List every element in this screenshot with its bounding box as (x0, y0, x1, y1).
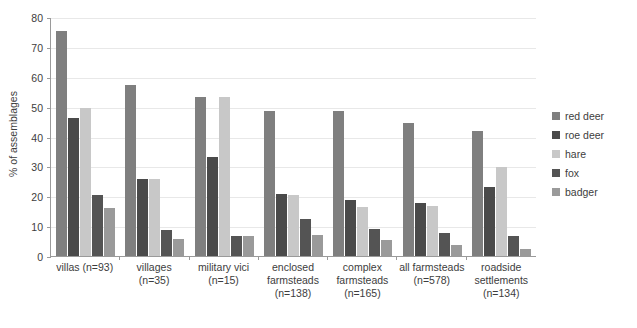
bar-red-deer-4 (333, 111, 344, 256)
x-axis-label-6: roadsidesettlements(n=134) (467, 261, 536, 300)
bar-hare-4 (357, 207, 368, 256)
bar-fox-0 (92, 195, 103, 256)
bar-hare-5 (427, 206, 438, 256)
legend-label: badger (565, 186, 598, 198)
x-axis-label-line: (n=578) (398, 274, 465, 287)
y-tick-label: 80 (7, 12, 43, 24)
x-tick-mark (119, 256, 120, 260)
bar-badger-5 (451, 245, 462, 256)
bar-group (397, 18, 466, 256)
plot-area: 80706050403020100 (50, 18, 536, 257)
x-axis-label-line: enclosed (259, 261, 326, 274)
x-axis-label-2: military vici(n=15) (189, 261, 258, 300)
bar-badger-4 (381, 240, 392, 256)
bar-hare-1 (149, 179, 160, 256)
y-tick-label: 0 (7, 251, 43, 263)
bar-red-deer-3 (264, 111, 275, 256)
bar-red-deer-0 (56, 31, 67, 256)
bar-roe-deer-1 (137, 179, 148, 256)
bar-hare-2 (219, 97, 230, 256)
bar-fox-1 (161, 230, 172, 256)
bar-hare-3 (288, 195, 299, 256)
x-axis-label-line: (n=138) (259, 287, 326, 300)
x-axis-label-line: villas (n=93) (51, 261, 118, 274)
legend-swatch-icon (552, 150, 560, 158)
bar-group (328, 18, 397, 256)
legend-label: fox (565, 167, 579, 179)
x-axis-label-line: complex (329, 261, 396, 274)
bar-roe-deer-2 (207, 157, 218, 256)
legend-label: red deer (565, 110, 604, 122)
bar-group (51, 18, 120, 256)
bar-roe-deer-6 (484, 187, 495, 256)
x-axis-label-line: military vici (190, 261, 257, 274)
x-tick-mark (189, 256, 190, 260)
bar-red-deer-1 (125, 85, 136, 256)
x-tick-mark (466, 256, 467, 260)
bar-fox-2 (231, 236, 242, 256)
bar-hare-0 (80, 108, 91, 256)
x-axis-label-line: villages (n=35) (120, 261, 187, 287)
legend-item-roe-deer[interactable]: roe deer (552, 129, 604, 141)
legend-swatch-icon (552, 188, 560, 196)
x-axis-label-line: all farmsteads (398, 261, 465, 274)
x-tick-mark (396, 256, 397, 260)
bar-badger-0 (104, 208, 115, 256)
legend-item-fox[interactable]: fox (552, 167, 604, 179)
legend-swatch-icon (552, 131, 560, 139)
x-axis-label-3: enclosedfarmsteads(n=138) (258, 261, 327, 300)
bar-chart: % of assemblages 80706050403020100 villa… (0, 0, 637, 328)
y-tick-mark (47, 257, 51, 258)
bar-group (259, 18, 328, 256)
bar-group (467, 18, 536, 256)
x-axis-labels: villas (n=93)villages (n=35)military vic… (50, 261, 536, 300)
y-tick-label: 20 (7, 191, 43, 203)
bar-fox-3 (300, 219, 311, 256)
bar-badger-2 (243, 236, 254, 256)
x-axis-label-4: complexfarmsteads(n=165) (328, 261, 397, 300)
x-tick-mark (327, 256, 328, 260)
bar-badger-6 (520, 249, 531, 256)
legend-item-hare[interactable]: hare (552, 148, 604, 160)
bar-groups (51, 18, 536, 256)
y-tick-label: 30 (7, 161, 43, 173)
bar-roe-deer-5 (415, 203, 426, 256)
bar-group (120, 18, 189, 256)
y-tick-label: 10 (7, 221, 43, 233)
bar-fox-5 (439, 233, 450, 256)
x-axis-label-1: villages (n=35) (119, 261, 188, 300)
bar-fox-4 (369, 229, 380, 256)
legend-swatch-icon (552, 169, 560, 177)
legend: red deerroe deerharefoxbadger (552, 110, 604, 198)
bar-red-deer-5 (403, 123, 414, 256)
bar-hare-6 (496, 167, 507, 256)
gridline (51, 257, 536, 258)
bar-badger-3 (312, 235, 323, 257)
x-tick-mark (258, 256, 259, 260)
x-axis-label-0: villas (n=93) (50, 261, 119, 300)
x-axis-label-5: all farmsteads(n=578) (397, 261, 466, 300)
bar-badger-1 (173, 239, 184, 256)
bar-roe-deer-0 (68, 118, 79, 256)
x-axis-label-line: farmsteads (329, 274, 396, 287)
legend-item-red-deer[interactable]: red deer (552, 110, 604, 122)
x-axis-label-line: settlements (468, 274, 535, 287)
y-tick-label: 60 (7, 72, 43, 84)
x-axis-label-line: (n=165) (329, 287, 396, 300)
bar-roe-deer-3 (276, 194, 287, 256)
bar-red-deer-2 (195, 97, 206, 256)
legend-item-badger[interactable]: badger (552, 186, 604, 198)
x-axis-label-line: roadside (468, 261, 535, 274)
legend-label: hare (565, 148, 586, 160)
legend-label: roe deer (565, 129, 604, 141)
y-tick-label: 40 (7, 132, 43, 144)
legend-swatch-icon (552, 112, 560, 120)
bar-red-deer-6 (472, 131, 483, 256)
bar-fox-6 (508, 236, 519, 256)
bar-roe-deer-4 (345, 200, 356, 256)
x-axis-label-line: (n=134) (468, 287, 535, 300)
y-tick-label: 70 (7, 42, 43, 54)
y-tick-label: 50 (7, 102, 43, 114)
x-axis-label-line: farmsteads (259, 274, 326, 287)
bar-group (190, 18, 259, 256)
